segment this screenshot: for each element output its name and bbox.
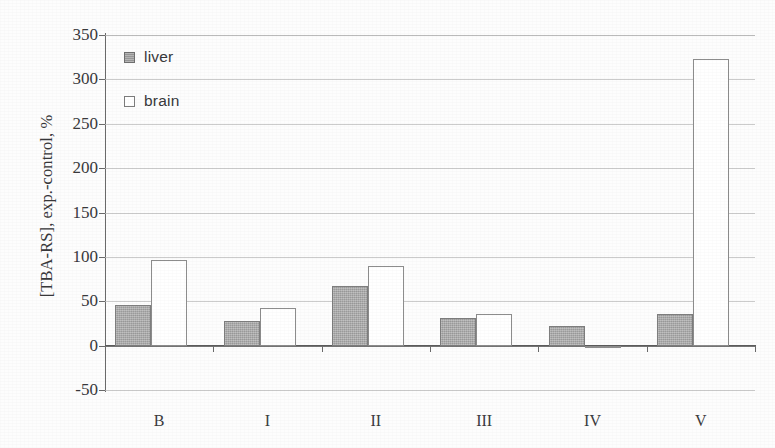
y-tick-label-200: 200 [52, 159, 98, 176]
legend-label-liver: liver [144, 48, 173, 66]
legend-swatch-brain-icon [124, 96, 135, 107]
legend-item-brain: brain [124, 90, 264, 112]
x-tick-label-II: II [346, 412, 406, 430]
y-tick-label-300: 300 [52, 70, 98, 87]
bar-brain-II [368, 266, 404, 346]
legend-swatch-liver-icon [124, 52, 135, 63]
y-tick-label-50: 50 [52, 292, 98, 309]
gridline-150 [105, 213, 755, 214]
y-tick-label-100: 100 [52, 248, 98, 265]
x-tick-label-III: III [454, 412, 514, 430]
bar-liver-V [657, 314, 693, 346]
bar-chart: [TBA-RS], exp.-control, % 35030025020015… [0, 0, 775, 448]
y-tick-label--50: -50 [52, 381, 98, 398]
bar-brain-IV [585, 346, 621, 349]
chart-legend: liverbrain [124, 46, 264, 134]
gridline-350 [105, 35, 755, 36]
y-axis-tick-labels: 350300250200150100500-50 [46, 0, 98, 448]
x-tick-label-I: I [238, 412, 298, 430]
legend-item-liver: liver [124, 46, 264, 68]
x-tick-label-IV: IV [563, 412, 623, 430]
x-tick-label-V: V [671, 412, 731, 430]
bar-liver-IV [549, 326, 585, 346]
x-tick-label-B: B [129, 412, 189, 430]
y-tick-label-250: 250 [52, 115, 98, 132]
bar-brain-I [260, 308, 296, 345]
bar-liver-B [115, 305, 151, 346]
bar-brain-B [151, 260, 187, 345]
bar-liver-II [332, 286, 368, 345]
legend-label-brain: brain [144, 92, 179, 110]
bar-liver-III [440, 318, 476, 346]
gridline-100 [105, 257, 755, 258]
gridline-0 [105, 346, 755, 347]
bar-brain-III [476, 314, 512, 346]
gridline-200 [105, 168, 755, 169]
y-tick-label-0: 0 [52, 337, 98, 354]
y-tick-label-350: 350 [52, 26, 98, 43]
bar-brain-V [693, 59, 729, 346]
bar-liver-I [224, 321, 260, 346]
gridline-50 [105, 301, 755, 302]
gridline--50 [105, 390, 755, 391]
x-tick-mark-6 [755, 346, 756, 352]
y-tick-label-150: 150 [52, 204, 98, 221]
